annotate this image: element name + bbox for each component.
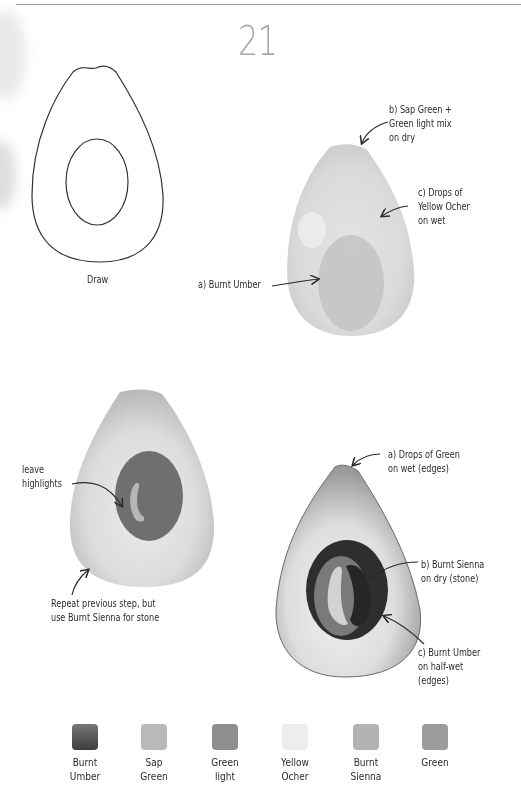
swatch-color xyxy=(212,724,238,750)
swatch-label: Burnt Umber xyxy=(60,756,109,784)
avocado-step-two xyxy=(70,390,214,587)
annotation-step-three-a: a) Drops of Green on wet (edges) xyxy=(388,448,460,476)
annotation-step-one-a: a) Burnt Umber xyxy=(198,278,261,292)
swatch-green-light: Green light xyxy=(195,724,255,784)
arrow-step-one-b xyxy=(362,122,388,143)
swatch-color xyxy=(353,724,379,750)
swatch-label: Burnt Sienna xyxy=(341,756,390,784)
avocado-outline-drawing xyxy=(32,66,163,262)
swatch-burnt-umber: Burnt Umber xyxy=(55,724,115,784)
avocado-step-one xyxy=(287,144,414,336)
swatch-yellow-ocher: Yellow Ocher xyxy=(265,724,325,784)
annotation-step-three-c: c) Burnt Umber on half-wet (edges) xyxy=(418,646,480,688)
annotation-step-one-b: b) Sap Green + Green light mix on dry xyxy=(389,103,452,145)
annotation-step-two-repeat: Repeat previous step, but use Burnt Sien… xyxy=(51,597,159,625)
swatch-burnt-sienna: Burnt Sienna xyxy=(336,724,396,784)
arrow-step-three-a xyxy=(353,454,380,465)
swatch-color xyxy=(141,724,167,750)
arrow-step-two-repeat xyxy=(72,570,88,595)
annotation-step-two-highlights: leave highlights xyxy=(22,463,62,491)
swatch-color xyxy=(72,724,98,750)
swatch-color xyxy=(282,724,308,750)
swatch-label: Green light xyxy=(200,756,249,784)
avocado-step-three xyxy=(276,465,421,677)
swatch-label: Yellow Ocher xyxy=(270,756,319,784)
swatch-label: Sap Green xyxy=(129,756,178,784)
annotation-step-one-c: c) Drops of Yellow Ocher on wet xyxy=(418,186,470,228)
annotation-step-three-b: b) Burnt Sienna on dry (stone) xyxy=(421,558,484,586)
swatch-sap-green: Sap Green xyxy=(124,724,184,784)
swatch-green: Green xyxy=(405,724,465,770)
swatch-color xyxy=(422,724,448,750)
swatch-label: Green xyxy=(410,756,459,770)
caption-draw: Draw xyxy=(87,273,108,287)
